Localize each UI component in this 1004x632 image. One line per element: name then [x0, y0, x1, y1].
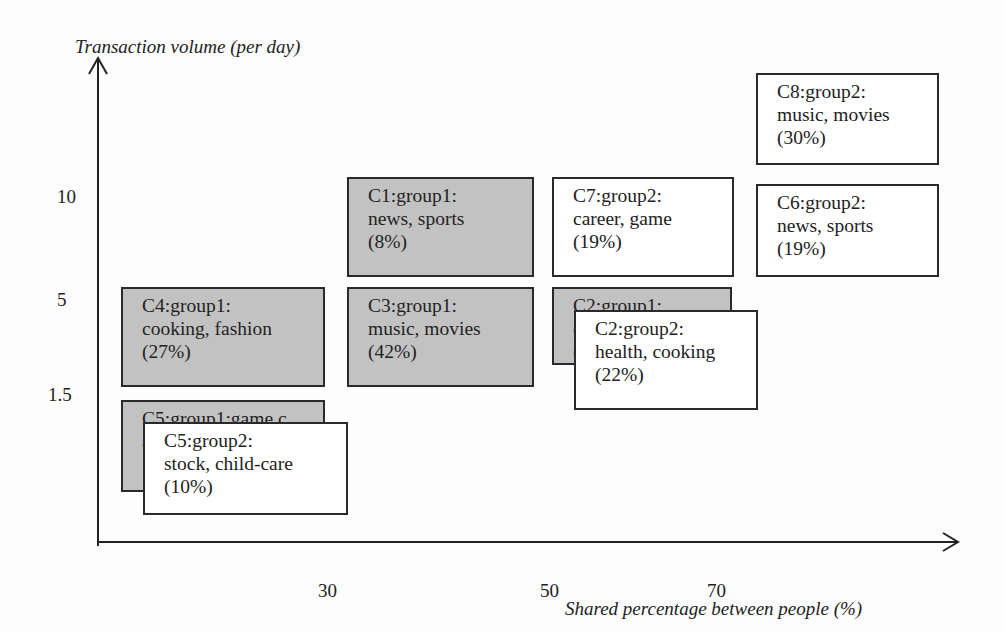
- cluster-label: C4:group1:: [142, 294, 323, 317]
- cluster-c3-group1: C3:group1: music, movies (42%): [347, 287, 534, 387]
- cluster-percent: (19%): [777, 237, 937, 260]
- cluster-topics: news, sports: [777, 214, 937, 237]
- cluster-percent: (19%): [573, 230, 732, 253]
- cluster-c7-group2: C7:group2: career, game (19%): [552, 177, 734, 277]
- cluster-c5-group2: C5:group2: stock, child-care (10%): [143, 422, 348, 515]
- cluster-percent: (27%): [142, 340, 323, 363]
- cluster-topics: health, cooking: [595, 340, 756, 363]
- cluster-label: C5:group2:: [164, 429, 346, 452]
- cluster-topics: stock, child-care: [164, 452, 346, 475]
- x-tick-70: 70: [707, 580, 726, 602]
- cluster-topics: music, movies: [777, 103, 937, 126]
- y-tick-10: 10: [57, 186, 76, 208]
- cluster-c2-group2: C2:group2: health, cooking (22%): [574, 310, 758, 410]
- x-tick-30: 30: [318, 580, 337, 602]
- cluster-label: C8:group2:: [777, 80, 937, 103]
- y-tick-1-5: 1.5: [48, 384, 72, 406]
- cluster-c6-group2: C6:group2: news, sports (19%): [756, 184, 939, 277]
- cluster-c4-group1: C4:group1: cooking, fashion (27%): [121, 287, 325, 387]
- cluster-label: C6:group2:: [777, 191, 937, 214]
- cluster-percent: (10%): [164, 475, 346, 498]
- cluster-label: C2:group2:: [595, 317, 756, 340]
- cluster-topics: career, game: [573, 207, 732, 230]
- cluster-percent: (30%): [777, 126, 937, 149]
- cluster-label: C3:group1:: [368, 294, 532, 317]
- cluster-percent: (8%): [368, 230, 532, 253]
- cluster-label: C7:group2:: [573, 184, 732, 207]
- cluster-c8-group2: C8:group2: music, movies (30%): [756, 73, 939, 165]
- y-tick-5: 5: [57, 289, 67, 311]
- x-tick-50: 50: [540, 580, 559, 602]
- cluster-topics: cooking, fashion: [142, 317, 323, 340]
- cluster-c1-group1: C1:group1: news, sports (8%): [347, 177, 534, 277]
- cluster-percent: (42%): [368, 340, 532, 363]
- cluster-label: C1:group1:: [368, 184, 532, 207]
- cluster-topics: music, movies: [368, 317, 532, 340]
- cluster-topics: news, sports: [368, 207, 532, 230]
- cluster-percent: (22%): [595, 363, 756, 386]
